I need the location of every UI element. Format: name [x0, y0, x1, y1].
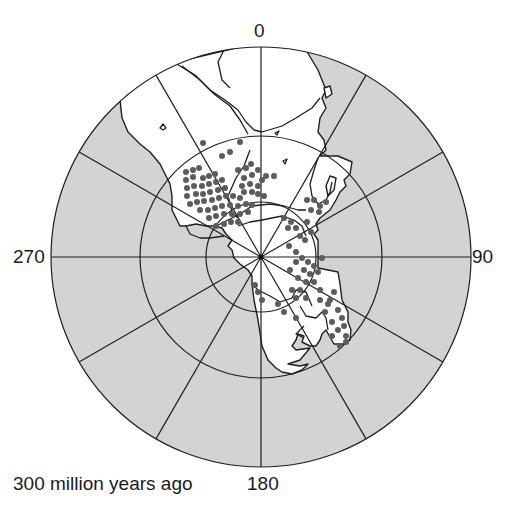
- deposit-dot: [227, 149, 233, 155]
- deposit-dot: [212, 171, 218, 177]
- deposit-dot: [213, 213, 219, 219]
- deposit-dot: [329, 319, 335, 325]
- longitude-label-90: 90: [472, 247, 493, 266]
- deposit-dot: [183, 169, 189, 175]
- deposit-dot: [263, 173, 269, 179]
- deposit-dot: [249, 189, 255, 195]
- deposit-dot: [219, 177, 225, 183]
- deposit-dot: [228, 219, 234, 225]
- deposit-dot: [307, 271, 313, 277]
- deposit-dot: [339, 315, 345, 321]
- longitude-label-0: 0: [254, 21, 265, 40]
- deposit-dot: [293, 295, 299, 301]
- deposit-dot: [212, 205, 218, 211]
- deposit-dot: [341, 323, 347, 329]
- deposit-dot: [255, 183, 261, 189]
- deposit-dot: [245, 209, 251, 215]
- deposit-dot: [304, 219, 310, 225]
- deposit-dot: [230, 193, 236, 199]
- deposit-dot: [271, 173, 277, 179]
- deposit-dot: [199, 183, 205, 189]
- deposit-dot: [311, 279, 317, 285]
- deposit-dot: [213, 179, 219, 185]
- deposit-dot: [216, 195, 222, 201]
- deposit-dot: [249, 202, 255, 208]
- deposit-dot: [297, 233, 303, 239]
- deposit-dot: [293, 315, 299, 321]
- deposit-dot: [235, 203, 241, 209]
- deposit-dot: [319, 255, 325, 261]
- deposit-dot: [213, 223, 219, 229]
- deposit-dot: [335, 327, 341, 333]
- deposit-dot: [207, 189, 213, 195]
- deposit-dot: [187, 201, 193, 207]
- deposit-dot: [196, 165, 202, 171]
- deposit-dot: [337, 343, 343, 349]
- deposit-dot: [252, 282, 258, 288]
- deposit-dot: [247, 181, 253, 187]
- deposit-dot: [255, 289, 261, 295]
- deposit-dot: [184, 185, 190, 191]
- deposit-dot: [201, 198, 207, 204]
- deposit-dot: [281, 309, 287, 315]
- deposit-dot: [311, 263, 317, 269]
- longitude-label-270: 270: [13, 247, 45, 266]
- deposit-dot: [315, 269, 321, 275]
- deposit-dot: [221, 221, 227, 227]
- deposit-dot: [200, 175, 206, 181]
- deposit-dot: [322, 309, 328, 315]
- deposit-dot: [248, 161, 254, 167]
- deposit-dot: [209, 197, 215, 203]
- deposit-dot: [308, 207, 314, 213]
- deposit-dot: [343, 339, 349, 345]
- deposit-dot: [243, 201, 249, 207]
- deposit-dot: [239, 183, 245, 189]
- deposit-dot: [288, 219, 294, 225]
- deposit-dot: [293, 249, 299, 255]
- deposit-dot: [299, 255, 305, 261]
- deposit-dot: [323, 199, 329, 205]
- deposit-dot: [191, 183, 197, 189]
- deposit-dot: [302, 237, 308, 243]
- deposit-dot: [183, 177, 189, 183]
- deposit-dot: [194, 199, 200, 205]
- deposit-dot: [190, 167, 196, 173]
- deposit-dot: [215, 187, 221, 193]
- deposit-dot: [293, 259, 299, 265]
- deposit-dot: [237, 195, 243, 201]
- deposit-dot: [297, 287, 303, 293]
- deposit-dot: [243, 165, 249, 171]
- deposit-dot: [289, 287, 295, 293]
- deposit-dot: [190, 174, 196, 180]
- deposit-dot: [200, 191, 206, 197]
- deposit-dot: [241, 189, 247, 195]
- deposit-dot: [255, 191, 261, 197]
- deposit-dot: [301, 267, 307, 273]
- deposit-dot: [293, 225, 299, 231]
- deposit-dot: [317, 203, 323, 209]
- deposit-dot: [221, 211, 227, 217]
- deposit-dot: [197, 207, 203, 213]
- deposit-dot: [308, 229, 314, 235]
- deposit-dot: [327, 297, 333, 303]
- deposit-dot: [249, 172, 255, 178]
- deposit-dot: [317, 287, 323, 293]
- deposit-dot: [275, 301, 281, 307]
- deposit-dot: [281, 215, 287, 221]
- deposit-dot: [261, 193, 267, 199]
- deposit-dot: [255, 167, 261, 173]
- deposit-dot: [329, 333, 335, 339]
- deposit-dot: [343, 333, 349, 339]
- deposit-dot: [304, 197, 310, 203]
- longitude-label-180: 180: [247, 474, 279, 493]
- deposit-dot: [335, 307, 341, 313]
- deposit-dot: [285, 225, 291, 231]
- deposit-dot: [331, 289, 337, 295]
- deposit-dot: [287, 267, 293, 273]
- deposit-dot: [237, 211, 243, 217]
- deposit-dot: [316, 209, 322, 215]
- deposit-dot: [205, 207, 211, 213]
- deposit-dot: [305, 259, 311, 265]
- deposit-dot: [200, 140, 206, 146]
- deposit-dot: [311, 197, 317, 203]
